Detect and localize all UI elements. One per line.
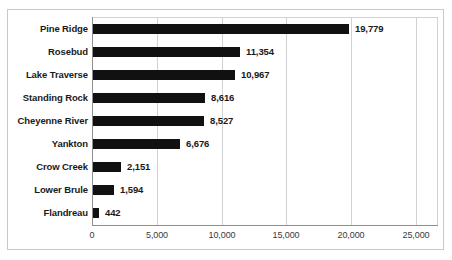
bar (93, 116, 204, 126)
x-tick-label: 0 (90, 230, 95, 240)
bar (93, 208, 99, 218)
bar (93, 162, 121, 172)
bar (93, 185, 114, 195)
category-label: Crow Creek (36, 161, 88, 172)
category-label: Standing Rock (23, 92, 88, 103)
x-tick-label: 20,000 (338, 230, 365, 240)
bar-value-label: 10,967 (241, 69, 269, 80)
x-tick-label: 25,000 (403, 230, 430, 240)
bar-value-label: 2,151 (127, 161, 150, 172)
bar-value-label: 19,779 (355, 23, 383, 34)
bar (93, 70, 235, 80)
bar (93, 93, 205, 103)
bar (93, 139, 180, 149)
bars-layer: Pine Ridge19,779Rosebud11,354Lake Traver… (0, 0, 452, 260)
category-label: Lower Brule (34, 184, 88, 195)
x-tick-label: 15,000 (273, 230, 300, 240)
bar-value-label: 6,676 (186, 138, 209, 149)
category-label: Pine Ridge (40, 23, 88, 34)
bar (93, 24, 349, 34)
bar-value-label: 1,594 (120, 184, 143, 195)
category-label: Flandreau (44, 207, 89, 218)
category-label: Cheyenne River (18, 115, 88, 126)
bar-value-label: 8,527 (210, 115, 233, 126)
category-label: Lake Traverse (26, 69, 88, 80)
bar (93, 47, 240, 57)
x-tick-label: 10,000 (209, 230, 236, 240)
category-label: Yankton (52, 138, 88, 149)
bar-value-label: 442 (105, 207, 121, 218)
bar-value-label: 8,616 (211, 92, 234, 103)
bar-value-label: 11,354 (246, 46, 274, 57)
x-tick-label: 5,000 (146, 230, 168, 240)
bar-chart: Pine Ridge19,779Rosebud11,354Lake Traver… (0, 0, 452, 260)
category-label: Rosebud (48, 46, 88, 57)
